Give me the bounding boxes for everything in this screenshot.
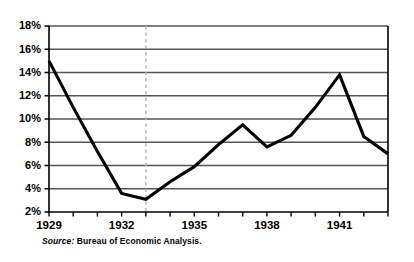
y-tick-label-12: 12% (19, 89, 41, 101)
y-tick-label-6: 6% (25, 159, 41, 171)
x-tick-label-1932: 1932 (109, 219, 135, 231)
source-note: Source: Bureau of Economic Analysis. (42, 236, 202, 246)
source-text: Bureau of Economic Analysis. (74, 236, 201, 246)
x-tick-label-1938: 1938 (254, 219, 280, 231)
y-tick-label-14: 14% (19, 66, 41, 78)
y-tick-label-18: 18% (19, 19, 41, 31)
y-tick-label-4: 4% (25, 182, 41, 194)
y-tick-label-8: 8% (25, 136, 41, 148)
chart-container: 2%4%6%8%10%12%14%16%18% 1929193219351938… (0, 0, 414, 262)
line-chart: 2%4%6%8%10%12%14%16%18% 1929193219351938… (0, 0, 414, 262)
x-tick-label-1935: 1935 (181, 219, 207, 231)
x-tick-label-1941: 1941 (327, 219, 353, 231)
source-label: Source: (42, 236, 74, 246)
x-tick-label-1929: 1929 (36, 219, 62, 231)
y-tick-label-16: 16% (19, 43, 41, 55)
y-tick-label-2: 2% (25, 205, 41, 217)
y-tick-label-10: 10% (19, 112, 41, 124)
